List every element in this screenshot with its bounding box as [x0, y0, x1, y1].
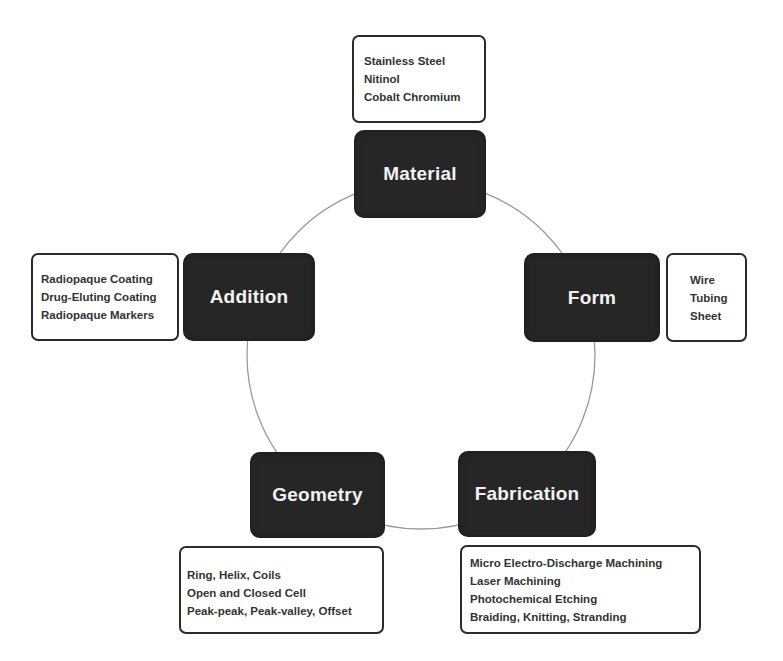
fabrication-label: Fabrication [475, 483, 580, 505]
geometry-node: Geometry [250, 452, 385, 538]
addition-option: Radiopaque Markers [41, 306, 177, 324]
fabrication-option: Laser Machining [470, 572, 699, 590]
geometry-option: Peak-peak, Peak-valley, Offset [187, 602, 382, 620]
addition-node: Addition [183, 253, 315, 341]
material-option: Cobalt Chromium [364, 88, 484, 106]
form-details-box: Wire Tubing Sheet [666, 253, 747, 342]
addition-details-box: Radiopaque Coating Drug-Eluting Coating … [31, 253, 179, 341]
fabrication-option: Braiding, Knitting, Stranding [470, 608, 699, 626]
background-show-through [470, 12, 549, 32]
material-node: Material [354, 130, 486, 218]
material-details-box: Stainless Steel Nitinol Cobalt Chromium [352, 35, 486, 123]
addition-option: Radiopaque Coating [41, 270, 177, 288]
fabrication-option: Photochemical Etching [470, 590, 699, 608]
material-label: Material [383, 163, 456, 185]
addition-label: Addition [210, 286, 289, 308]
fabrication-node: Fabrication [458, 451, 596, 537]
geometry-option: Ring, Helix, Coils [187, 566, 382, 584]
form-label: Form [568, 287, 616, 309]
form-option: Tubing [690, 289, 745, 307]
geometry-details-box: Ring, Helix, Coils Open and Closed Cell … [179, 546, 384, 634]
addition-option: Drug-Eluting Coating [41, 288, 177, 306]
form-option: Sheet [690, 307, 745, 325]
form-option: Wire [690, 271, 745, 289]
geometry-label: Geometry [272, 484, 362, 506]
fabrication-details-box: Micro Electro-Discharge Machining Laser … [460, 545, 701, 634]
material-option: Stainless Steel [364, 52, 484, 70]
material-option: Nitinol [364, 70, 484, 88]
fabrication-option: Micro Electro-Discharge Machining [470, 554, 699, 572]
geometry-option: Open and Closed Cell [187, 584, 382, 602]
form-node: Form [524, 253, 660, 342]
